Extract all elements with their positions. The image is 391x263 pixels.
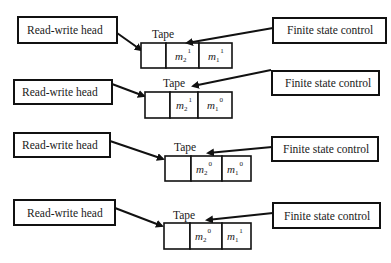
tape: m21 m11 bbox=[141, 43, 232, 68]
snapshot-1: Read-write head Tape m21 m11 Finite stat… bbox=[18, 17, 386, 68]
finite-state-control-label: Finite state control bbox=[283, 143, 369, 155]
tape: m20 m11 bbox=[164, 223, 251, 249]
read-write-head-label: Read-write head bbox=[27, 24, 103, 36]
read-write-head-box: Read-write head bbox=[14, 133, 110, 157]
finite-state-control-label: Finite state control bbox=[284, 210, 370, 222]
finite-state-control-box: Finite state control bbox=[272, 71, 379, 95]
head-arrow bbox=[115, 208, 162, 226]
control-arrow bbox=[207, 213, 273, 220]
read-write-head-label: Read-write head bbox=[22, 139, 98, 151]
tape-cell-empty bbox=[145, 92, 170, 118]
head-arrow bbox=[112, 84, 144, 96]
read-write-head-box: Read-write head bbox=[18, 17, 117, 43]
snapshot-2: Read-write head Tape m21 m10 Finite stat… bbox=[14, 70, 379, 118]
finite-state-control-box: Finite state control bbox=[272, 137, 378, 161]
read-write-head-box: Read-write head bbox=[14, 80, 112, 104]
control-arrow bbox=[193, 70, 271, 86]
tape-label: Tape bbox=[174, 141, 196, 154]
read-write-head-box: Read-write head bbox=[14, 200, 115, 225]
snapshot-3: Read-write head Tape m20 m10 Finite stat… bbox=[14, 133, 378, 181]
tape-cell-empty bbox=[165, 156, 191, 181]
control-arrow bbox=[187, 28, 273, 43]
tape-label: Tape bbox=[152, 28, 174, 41]
control-arrow bbox=[208, 147, 272, 153]
tape: m21 m10 bbox=[145, 92, 232, 118]
head-arrow bbox=[117, 33, 141, 50]
finite-state-control-label: Finite state control bbox=[285, 77, 371, 89]
tape: m20 m10 bbox=[165, 156, 251, 181]
turing-tape-diagram: Read-write head Tape m21 m11 Finite stat… bbox=[0, 0, 391, 263]
read-write-head-label: Read-write head bbox=[27, 207, 103, 219]
read-write-head-label: Read-write head bbox=[22, 86, 98, 98]
snapshot-4: Read-write head Tape m20 m11 Finite stat… bbox=[14, 200, 380, 249]
head-arrow bbox=[110, 141, 163, 159]
tape-label: Tape bbox=[163, 77, 185, 90]
finite-state-control-box: Finite state control bbox=[273, 18, 386, 43]
tape-cell-empty bbox=[164, 223, 190, 249]
finite-state-control-label: Finite state control bbox=[287, 24, 373, 36]
finite-state-control-box: Finite state control bbox=[273, 203, 380, 228]
tape-label: Tape bbox=[173, 209, 195, 222]
tape-cell-empty bbox=[141, 43, 166, 68]
